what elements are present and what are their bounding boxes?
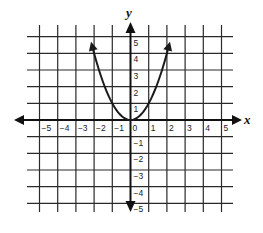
x-tick-label: 0: [133, 123, 138, 133]
y-tick-label: 3: [134, 71, 139, 81]
x-tick-label: −5: [42, 123, 52, 133]
axes: [14, 22, 242, 212]
x-tick-label: 3: [187, 123, 192, 133]
coordinate-plane: −5−4−3−2−101234554321−1−2−3−4−5 x y: [0, 0, 263, 233]
x-tick-label: −1: [114, 123, 124, 133]
x-axis-label: x: [243, 112, 251, 127]
tick-labels: −5−4−3−2−101234554321−1−2−3−4−5: [42, 38, 229, 215]
arrow-up-icon: [126, 22, 136, 33]
y-tick-label: 4: [134, 54, 139, 64]
curve-arrow-left-icon: [89, 42, 98, 52]
y-tick-label: −4: [134, 188, 144, 198]
x-tick-label: −2: [96, 123, 106, 133]
x-tick-label: 2: [169, 123, 174, 133]
curve-arrow-right-icon: [163, 42, 172, 52]
y-tick-label: 5: [134, 38, 139, 48]
y-axis-label: y: [124, 5, 132, 20]
y-tick-label: −1: [134, 138, 144, 148]
arrow-right-icon: [232, 115, 242, 125]
x-tick-label: −4: [60, 123, 70, 133]
y-tick-label: −3: [134, 171, 144, 181]
y-tick-label: 1: [134, 104, 139, 114]
x-tick-label: 5: [224, 123, 229, 133]
y-tick-label: −5: [134, 204, 144, 214]
x-tick-label: −3: [78, 123, 88, 133]
y-tick-label: −2: [134, 154, 144, 164]
y-tick-label: 2: [134, 88, 139, 98]
x-tick-label: 1: [151, 123, 156, 133]
arrow-left-icon: [14, 115, 24, 125]
x-tick-label: 4: [205, 123, 210, 133]
